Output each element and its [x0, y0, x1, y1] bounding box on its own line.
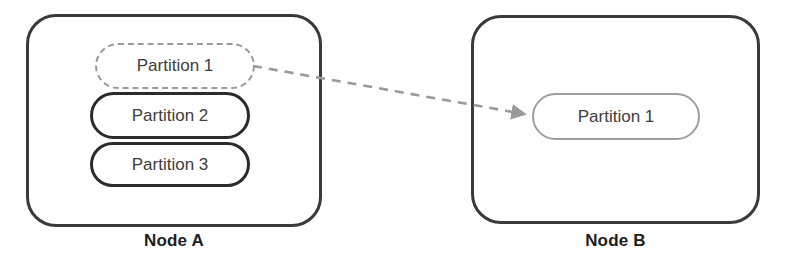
node-a-partition-1[interactable]: Partition 1: [95, 43, 255, 89]
node-b-partition-1[interactable]: Partition 1: [532, 93, 700, 140]
node-a-partition-2-label: Partition 2: [132, 106, 209, 126]
node-a-partition-1-label: Partition 1: [137, 56, 214, 76]
node-b-caption: Node B: [471, 231, 760, 251]
node-a-caption: Node A: [26, 231, 322, 251]
node-a-partition-2[interactable]: Partition 2: [90, 92, 250, 139]
node-a-partition-3-label: Partition 3: [132, 155, 209, 175]
node-a-partition-3[interactable]: Partition 3: [90, 142, 250, 187]
node-b-partition-1-label: Partition 1: [578, 107, 655, 127]
partition-migration-diagram: Partition 1 Partition 2 Partition 3 Node…: [0, 0, 795, 272]
